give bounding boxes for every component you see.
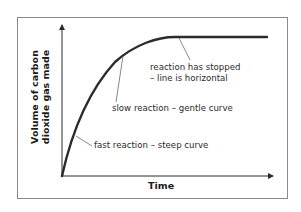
leader-slow — [116, 56, 123, 102]
leader-fast — [76, 136, 92, 146]
annotation-reaction-stopped-line2: – line is horizontal — [150, 73, 241, 84]
annotation-reaction-stopped: reaction has stopped – line is horizonta… — [150, 62, 241, 84]
annotation-fast-reaction: fast reaction – steep curve — [94, 140, 208, 151]
y-axis-label: Volume of carbon dioxide gas made — [29, 17, 51, 177]
annotation-slow-reaction: slow reaction – gentle curve — [112, 103, 233, 114]
y-axis-label-line1: Volume of carbon — [29, 17, 40, 177]
annotation-reaction-stopped-line1: reaction has stopped — [150, 62, 241, 73]
x-axis-label: Time — [148, 180, 174, 191]
leader-stop — [179, 38, 190, 60]
y-axis-label-line2: dioxide gas made — [40, 17, 51, 177]
